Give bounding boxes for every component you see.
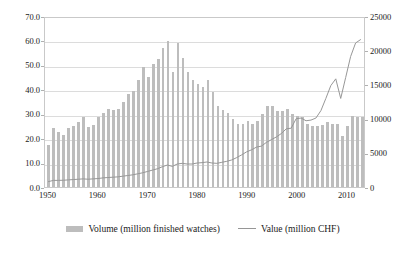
y-axis-left-tick-label: 50.0 bbox=[0, 61, 45, 70]
bar-swatch-icon bbox=[66, 226, 83, 232]
x-axis-tick-label: 1990 bbox=[227, 191, 267, 200]
legend-label-value: Value (million CHF) bbox=[261, 224, 340, 234]
chart-legend: Volume (million finished watches) Value … bbox=[0, 224, 406, 234]
line-series-value bbox=[45, 18, 364, 187]
x-axis-tick-label: 1950 bbox=[27, 191, 67, 200]
legend-label-volume: Volume (million finished watches) bbox=[88, 224, 219, 234]
legend-item-value: Value (million CHF) bbox=[238, 224, 340, 234]
y-axis-right-tick-mark bbox=[365, 154, 368, 155]
y-axis-right-tick-label: 0 bbox=[370, 184, 374, 193]
y-axis-left-tick-label: 10.0 bbox=[0, 159, 45, 168]
y-axis-left-tick-label: 40.0 bbox=[0, 86, 45, 95]
legend-item-volume: Volume (million finished watches) bbox=[66, 224, 219, 234]
y-axis-right-tick-mark bbox=[365, 120, 368, 121]
y-axis-left-tick-mark bbox=[41, 188, 44, 189]
x-axis-tick-label: 1960 bbox=[77, 191, 117, 200]
y-axis-left-tick-label: 30.0 bbox=[0, 110, 45, 119]
x-axis-tick-label: 2010 bbox=[327, 191, 367, 200]
chart-container: 0.010.020.030.040.050.060.070.0 05000100… bbox=[0, 0, 406, 256]
y-axis-right-tick-label: 25000 bbox=[370, 13, 391, 22]
y-axis-right-tick-label: 5000 bbox=[370, 149, 387, 158]
y-axis-right-tick-mark bbox=[365, 85, 368, 86]
y-axis-left-tick-label: 70.0 bbox=[0, 13, 45, 22]
y-axis-right-tick-mark bbox=[365, 17, 368, 18]
x-axis-tick-label: 1980 bbox=[177, 191, 217, 200]
line-swatch-icon bbox=[238, 228, 256, 229]
x-axis-tick-label: 1970 bbox=[127, 191, 167, 200]
y-axis-right-tick-label: 10000 bbox=[370, 115, 391, 124]
y-axis-left-tick-label: 60.0 bbox=[0, 37, 45, 46]
y-axis-left-tick-label: 20.0 bbox=[0, 135, 45, 144]
x-axis-tick-label: 2000 bbox=[277, 191, 317, 200]
value-line-path bbox=[48, 40, 360, 182]
y-axis-right-tick-label: 20000 bbox=[370, 47, 391, 56]
plot-area bbox=[44, 17, 365, 188]
y-axis-right-tick-mark bbox=[365, 188, 368, 189]
y-axis-right-tick-label: 15000 bbox=[370, 81, 391, 90]
y-axis-right-tick-mark bbox=[365, 51, 368, 52]
